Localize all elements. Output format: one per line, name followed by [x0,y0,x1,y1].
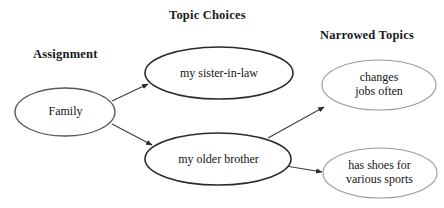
node-older-brother[interactable] [145,133,291,185]
edge-brother-to-changes [268,107,324,138]
node-has-shoes-various-sports[interactable] [323,148,437,198]
node-changes-jobs-often[interactable] [322,60,436,110]
diagram-canvas: Assignment Topic Choices Narrowed Topics… [0,0,444,208]
column-header-narrowed-topics: Narrowed Topics [320,28,414,43]
column-header-assignment: Assignment [33,47,98,62]
edge-family-to-brother [112,124,152,145]
node-family[interactable] [15,88,115,136]
column-header-topic-choices: Topic Choices [169,8,246,23]
edge-family-to-sister [112,84,148,101]
node-sister-in-law[interactable] [145,47,293,99]
edge-brother-to-shoes [286,166,322,172]
